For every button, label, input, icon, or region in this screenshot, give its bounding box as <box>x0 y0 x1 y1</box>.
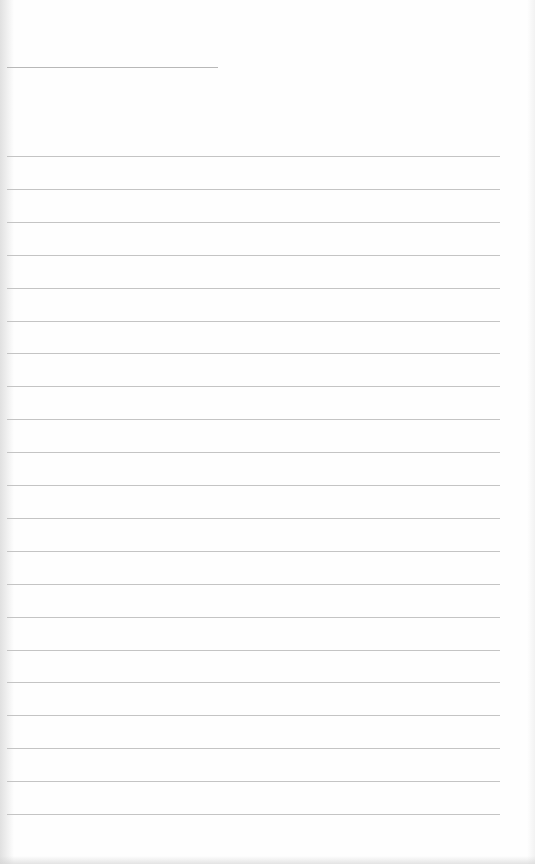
page-edge-shadow-bottom <box>0 856 535 864</box>
ruled-line <box>7 452 500 453</box>
ruled-line <box>7 321 500 322</box>
ruled-line <box>7 288 500 289</box>
title-line <box>7 67 218 68</box>
ruled-line <box>7 156 500 157</box>
ruled-line <box>7 650 500 651</box>
lined-paper-page <box>0 0 535 864</box>
page-edge-shadow-left <box>0 0 14 864</box>
ruled-line <box>7 715 500 716</box>
ruled-line <box>7 419 500 420</box>
ruled-line <box>7 814 500 815</box>
ruled-line <box>7 682 500 683</box>
ruled-line <box>7 748 500 749</box>
ruled-line <box>7 617 500 618</box>
page-edge-shadow-right <box>527 0 535 864</box>
ruled-line <box>7 518 500 519</box>
ruled-line <box>7 485 500 486</box>
ruled-line <box>7 353 500 354</box>
ruled-line <box>7 189 500 190</box>
ruled-line <box>7 781 500 782</box>
ruled-line <box>7 584 500 585</box>
ruled-line <box>7 551 500 552</box>
ruled-line <box>7 222 500 223</box>
ruled-line <box>7 255 500 256</box>
ruled-line <box>7 386 500 387</box>
